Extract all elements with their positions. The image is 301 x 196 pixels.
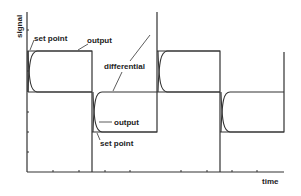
differential-leader-down — [113, 72, 122, 91]
signal-diagram: set point output differential output set… — [0, 0, 301, 196]
output-top-label: output — [87, 36, 112, 45]
differential-label: differential — [104, 62, 145, 71]
differential-leader-up — [130, 35, 150, 61]
output-bottom-label: output — [114, 118, 139, 127]
y-axis-label: signal — [15, 15, 24, 38]
x-axis-label: time — [262, 177, 279, 186]
set-point-bottom-label: set point — [100, 139, 134, 148]
set-point-top-label: set point — [34, 34, 68, 43]
output-curve — [28, 51, 284, 132]
